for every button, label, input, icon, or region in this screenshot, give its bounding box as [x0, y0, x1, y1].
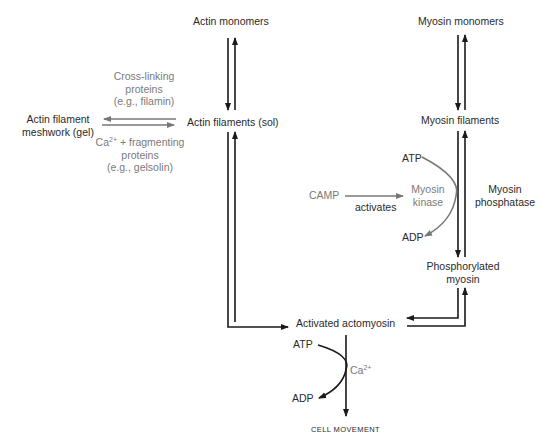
node-actin-monomers: Actin monomers: [193, 15, 269, 28]
crosslink-line2: proteins: [104, 83, 184, 96]
node-actin-filaments-sol: Actin filaments (sol): [187, 116, 279, 129]
label-camp: CAMP: [309, 189, 339, 202]
myosin-kinase-line2: kinase: [408, 196, 448, 209]
label-adp-top: ADP: [402, 231, 424, 244]
label-myosin-kinase: Myosin kinase: [408, 183, 448, 208]
ca-bottom-text: Ca: [350, 364, 363, 376]
phosphorylated-line2: myosin: [420, 273, 506, 286]
label-myosin-phosphatase: Myosin phosphatase: [472, 183, 538, 208]
label-fragmenting-proteins: Ca2+ + fragmenting proteins (e.g., gelso…: [88, 136, 192, 174]
crosslink-line3: (e.g., filamin): [104, 95, 184, 108]
node-phosphorylated-myosin: Phosphorylated myosin: [420, 260, 506, 285]
diagram-arrows: [0, 0, 550, 448]
node-cell-movement: CELL MOVEMENT: [311, 424, 380, 437]
node-myosin-filaments: Myosin filaments: [421, 114, 499, 127]
phosphorylated-line1: Phosphorylated: [420, 260, 506, 273]
label-activates: activates: [355, 201, 396, 214]
label-crosslinking-proteins: Cross-linking proteins (e.g., filamin): [104, 70, 184, 108]
fragment-line2: proteins: [88, 149, 192, 162]
crosslink-line1: Cross-linking: [104, 70, 184, 83]
node-actin-meshwork-line1: Actin filament: [22, 113, 94, 126]
node-actin-meshwork: Actin filament meshwork (gel): [22, 113, 94, 138]
node-actin-meshwork-line2: meshwork (gel): [22, 126, 94, 139]
ca-superscript: 2+: [109, 136, 117, 143]
myosin-kinase-line1: Myosin: [408, 183, 448, 196]
label-adp-bottom: ADP: [292, 392, 314, 405]
label-atp-bottom: ATP: [293, 338, 313, 351]
node-myosin-monomers: Myosin monomers: [418, 15, 504, 28]
node-activated-actomyosin: Activated actomyosin: [296, 317, 395, 330]
ca-text: Ca: [96, 136, 109, 148]
myosin-phosphatase-line1: Myosin: [472, 183, 538, 196]
fragment-line1: Ca2+ + fragmenting: [88, 136, 192, 149]
fragmenting-text: + fragmenting: [117, 136, 184, 148]
label-atp-top: ATP: [402, 152, 422, 165]
myosin-phosphatase-line2: phosphatase: [472, 196, 538, 209]
fragment-line3: (e.g., gelsolin): [88, 161, 192, 174]
ca-bottom-superscript: 2+: [363, 364, 371, 371]
label-ca-bottom: Ca2+: [350, 364, 371, 377]
